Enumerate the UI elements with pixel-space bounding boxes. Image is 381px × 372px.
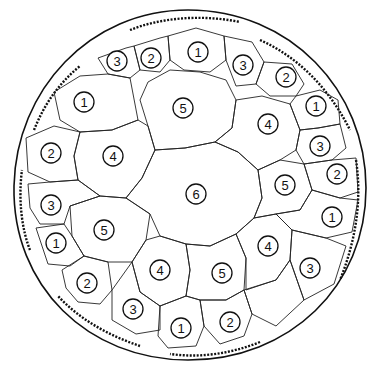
cell-number: 5 bbox=[179, 101, 186, 116]
cell-label-5: 5 bbox=[212, 263, 232, 283]
cell-label-2: 2 bbox=[41, 143, 61, 163]
cell-label-1: 1 bbox=[322, 207, 342, 227]
cell-number: 5 bbox=[218, 266, 225, 281]
cell-label-3: 3 bbox=[123, 299, 143, 319]
cell-number: 3 bbox=[316, 139, 323, 154]
cell-number: 3 bbox=[113, 54, 120, 69]
cell-label-6: 6 bbox=[186, 184, 206, 204]
cell-number: 5 bbox=[281, 178, 288, 193]
cell-number: 4 bbox=[264, 117, 271, 132]
cell-number: 3 bbox=[306, 261, 313, 276]
cell-label-3: 3 bbox=[310, 136, 330, 156]
cell-label-1: 1 bbox=[306, 96, 326, 116]
cell-number: 3 bbox=[239, 58, 246, 73]
cell-number: 2 bbox=[333, 167, 340, 182]
cell-label-4: 4 bbox=[258, 114, 278, 134]
cell-label-2: 2 bbox=[327, 164, 347, 184]
cell-label-3: 3 bbox=[300, 258, 320, 278]
cell-label-5: 5 bbox=[94, 220, 114, 240]
cell-number: 2 bbox=[47, 146, 54, 161]
cell-label-2: 2 bbox=[77, 273, 97, 293]
cell-number: 1 bbox=[52, 236, 59, 251]
cell-label-4: 4 bbox=[103, 146, 123, 166]
cell-label-3: 3 bbox=[233, 55, 253, 75]
outer-boundary bbox=[14, 10, 366, 360]
cell-number: 1 bbox=[194, 45, 201, 60]
cell-number: 1 bbox=[312, 99, 319, 114]
cell-number: 6 bbox=[192, 187, 199, 202]
cell-label-4: 4 bbox=[150, 260, 170, 280]
cell-number: 3 bbox=[129, 302, 136, 317]
cell-number: 4 bbox=[109, 149, 116, 164]
cell-label-2: 2 bbox=[220, 312, 240, 332]
cell-label-2: 2 bbox=[276, 67, 296, 87]
cell-number: 2 bbox=[147, 51, 154, 66]
cell-number: 1 bbox=[80, 95, 87, 110]
cell-number: 4 bbox=[264, 239, 271, 254]
cell-number: 1 bbox=[177, 321, 184, 336]
cell-label-1: 1 bbox=[46, 233, 66, 253]
cell-label-1: 1 bbox=[74, 92, 94, 112]
cell-number: 2 bbox=[282, 70, 289, 85]
cell-number: 4 bbox=[156, 263, 163, 278]
cell-number: 2 bbox=[83, 276, 90, 291]
cell-label-3: 3 bbox=[41, 195, 61, 215]
cell-label-2: 2 bbox=[141, 48, 161, 68]
cell-label-1: 1 bbox=[171, 318, 191, 338]
cell-label-3: 3 bbox=[107, 51, 127, 71]
cell-label-5: 5 bbox=[275, 175, 295, 195]
cell-map-diagram: 123321514324265351144532312 bbox=[0, 0, 381, 372]
cell-number: 3 bbox=[47, 198, 54, 213]
cell-number: 1 bbox=[328, 210, 335, 225]
cell-number: 2 bbox=[226, 315, 233, 330]
cell-label-4: 4 bbox=[258, 236, 278, 256]
cell-number: 5 bbox=[100, 223, 107, 238]
cell-label-1: 1 bbox=[188, 42, 208, 62]
cell-label-5: 5 bbox=[173, 98, 193, 118]
